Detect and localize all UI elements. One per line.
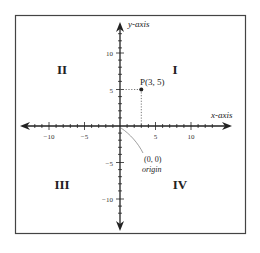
x-tick-label-pos5: 5 xyxy=(154,133,158,141)
quadrant-label-ii: II xyxy=(57,62,67,77)
coordinate-plane-diagram: −10 −5 5 10 x-axis xyxy=(0,0,260,253)
x-tick-label-neg10: −10 xyxy=(44,133,55,141)
quadrant-label-iv: IV xyxy=(173,177,188,192)
quadrant-label-i: I xyxy=(172,62,177,77)
y-tick-label-pos10: 10 xyxy=(106,50,114,58)
point-label: P(3, 5) xyxy=(140,77,165,87)
point-marker-icon xyxy=(139,88,143,92)
y-tick-label-neg10: −10 xyxy=(102,196,113,204)
x-axis: −10 −5 5 10 x-axis xyxy=(20,110,233,141)
y-tick-label-neg5: −5 xyxy=(106,160,114,168)
x-axis-label: x-axis xyxy=(210,110,233,120)
diagram-frame xyxy=(16,16,246,234)
origin-label: origin xyxy=(142,165,162,174)
y-axis-label: y-axis xyxy=(127,19,150,29)
y-axis: 10 5 −5 −10 y-axis xyxy=(102,19,150,231)
y-tick-label-pos5: 5 xyxy=(110,87,114,95)
point-p: P(3, 5) xyxy=(120,77,165,126)
x-tick-label-neg5: −5 xyxy=(81,133,89,141)
origin-coords: (0, 0) xyxy=(144,155,162,164)
origin-leader-line xyxy=(121,128,143,153)
x-tick-label-pos10: 10 xyxy=(188,133,196,141)
quadrant-label-iii: III xyxy=(54,177,69,192)
